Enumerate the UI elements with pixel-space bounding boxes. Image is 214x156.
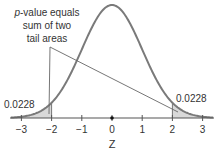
x-tick-label: 0 <box>109 124 115 135</box>
x-axis-label: Z <box>109 138 116 150</box>
annotation-line-2: sum of two <box>23 20 72 31</box>
annotation-line-1-rest: -value equals <box>20 7 79 18</box>
x-tick-label: 3 <box>200 124 206 135</box>
x-tick-label: −1 <box>76 124 88 135</box>
zero-marker-dot <box>110 116 114 120</box>
x-tick-label: −2 <box>46 124 58 135</box>
right-tail-area-label: 0.0228 <box>176 93 207 104</box>
leader-line-right-tail <box>50 47 178 112</box>
normal-distribution-chart: −3−2−10123 Z p-value equals sum of two t… <box>0 0 214 156</box>
left-tail-area-label: 0.0228 <box>4 99 35 110</box>
annotation-line-3: tail areas <box>27 33 68 44</box>
x-tick-label: 2 <box>170 124 176 135</box>
x-tick-label: 1 <box>139 124 145 135</box>
annotation-line-1: p-value equals <box>13 7 79 18</box>
x-tick-label: −3 <box>16 124 28 135</box>
